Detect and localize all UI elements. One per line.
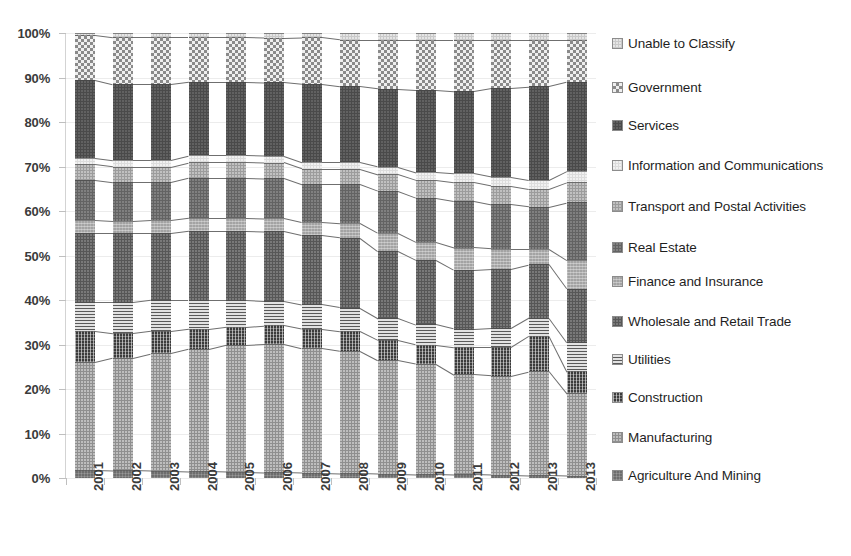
bar-segment[interactable] <box>189 178 209 218</box>
bar-segment[interactable] <box>302 304 322 328</box>
chart-bar[interactable] <box>416 33 436 478</box>
bar-segment[interactable] <box>113 182 133 221</box>
bar-segment[interactable] <box>416 40 436 90</box>
bar-segment[interactable] <box>416 242 436 260</box>
bar-segment[interactable] <box>113 233 133 302</box>
bar-segment[interactable] <box>567 289 587 342</box>
bar-segment[interactable] <box>226 345 246 472</box>
bar-segment[interactable] <box>454 329 474 347</box>
bar-segment[interactable] <box>113 37 133 84</box>
bar-segment[interactable] <box>113 221 133 233</box>
legend-item[interactable]: Transport and Postal Activities <box>612 199 851 216</box>
bar-segment[interactable] <box>529 207 549 249</box>
legend-item[interactable]: Services <box>612 118 851 135</box>
bar-segment[interactable] <box>189 300 209 329</box>
bar-segment[interactable] <box>491 249 511 269</box>
bar-segment[interactable] <box>491 269 511 328</box>
bar-segment[interactable] <box>151 84 171 160</box>
bar-segment[interactable] <box>529 189 549 207</box>
bar-segment[interactable] <box>491 376 511 475</box>
bar-segment[interactable] <box>454 347 474 375</box>
bar-segment[interactable] <box>529 264 549 317</box>
bar-segment[interactable] <box>378 318 398 340</box>
bar-segment[interactable] <box>454 40 474 91</box>
bar-segment[interactable] <box>416 364 436 474</box>
bar-segment[interactable] <box>226 327 246 345</box>
bar-segment[interactable] <box>113 302 133 333</box>
bar-segment[interactable] <box>226 178 246 218</box>
bar-segment[interactable] <box>75 164 95 180</box>
bar-segment[interactable] <box>454 182 474 201</box>
bar-segment[interactable] <box>302 235 322 304</box>
bar-segment[interactable] <box>378 174 398 191</box>
chart-bar[interactable] <box>302 33 322 478</box>
bar-segment[interactable] <box>378 233 398 251</box>
legend-item[interactable]: Government <box>612 80 851 97</box>
bar-segment[interactable] <box>75 33 95 35</box>
legend-item[interactable]: Wholesale and Retail Trade <box>612 314 851 331</box>
bar-segment[interactable] <box>529 40 549 87</box>
bar-segment[interactable] <box>340 169 360 185</box>
bar-segment[interactable] <box>264 344 284 473</box>
bar-segment[interactable] <box>302 348 322 473</box>
bar-segment[interactable] <box>302 169 322 185</box>
bar-segment[interactable] <box>226 231 246 300</box>
chart-bar[interactable] <box>567 33 587 478</box>
bar-segment[interactable] <box>340 308 360 332</box>
bar-segment[interactable] <box>75 362 95 470</box>
bar-segment[interactable] <box>113 358 133 471</box>
bar-segment[interactable] <box>454 374 474 474</box>
chart-bar[interactable] <box>340 33 360 478</box>
bar-segment[interactable] <box>416 180 436 198</box>
bar-segment[interactable] <box>151 300 171 331</box>
bar-segment[interactable] <box>567 260 587 289</box>
bar-segment[interactable] <box>529 318 549 336</box>
chart-bar[interactable] <box>264 33 284 478</box>
bar-segment[interactable] <box>113 167 133 183</box>
bar-segment[interactable] <box>302 184 322 222</box>
bar-segment[interactable] <box>567 171 587 182</box>
bar-segment[interactable] <box>151 167 171 183</box>
bar-segment[interactable] <box>491 204 511 249</box>
bar-segment[interactable] <box>567 371 587 393</box>
bar-segment[interactable] <box>567 202 587 260</box>
bar-segment[interactable] <box>491 186 511 205</box>
legend-item[interactable]: Finance and Insurance <box>612 274 851 291</box>
bar-segment[interactable] <box>264 231 284 300</box>
bar-segment[interactable] <box>491 177 511 186</box>
bar-segment[interactable] <box>416 324 436 344</box>
bar-segment[interactable] <box>529 33 549 40</box>
bar-segment[interactable] <box>75 80 95 158</box>
chart-bar[interactable] <box>113 33 133 478</box>
chart-bar[interactable] <box>378 33 398 478</box>
bar-segment[interactable] <box>302 329 322 348</box>
bar-segment[interactable] <box>226 33 246 37</box>
bar-segment[interactable] <box>529 336 549 372</box>
bar-segment[interactable] <box>491 33 511 40</box>
bar-segment[interactable] <box>302 33 322 37</box>
bar-segment[interactable] <box>75 220 95 233</box>
bar-segment[interactable] <box>226 162 246 178</box>
legend-item[interactable]: Construction <box>612 390 851 407</box>
bar-segment[interactable] <box>340 40 360 87</box>
legend-item[interactable]: Unable to Classify <box>612 36 851 53</box>
bar-segment[interactable] <box>302 37 322 84</box>
bar-segment[interactable] <box>567 182 587 202</box>
bar-segment[interactable] <box>567 33 587 40</box>
bar-segment[interactable] <box>378 251 398 318</box>
bar-segment[interactable] <box>189 162 209 178</box>
bar-segment[interactable] <box>454 248 474 270</box>
bar-segment[interactable] <box>416 90 436 172</box>
bar-segment[interactable] <box>454 33 474 40</box>
chart-bar[interactable] <box>529 33 549 478</box>
bar-segment[interactable] <box>226 155 246 162</box>
bar-segment[interactable] <box>264 301 284 325</box>
bar-segment[interactable] <box>340 86 360 162</box>
bar-segment[interactable] <box>529 249 549 265</box>
bar-segment[interactable] <box>151 220 171 233</box>
bar-segment[interactable] <box>264 38 284 83</box>
bar-segment[interactable] <box>189 329 209 349</box>
bar-segment[interactable] <box>264 325 284 343</box>
bar-segment[interactable] <box>491 40 511 88</box>
bar-segment[interactable] <box>151 331 171 353</box>
